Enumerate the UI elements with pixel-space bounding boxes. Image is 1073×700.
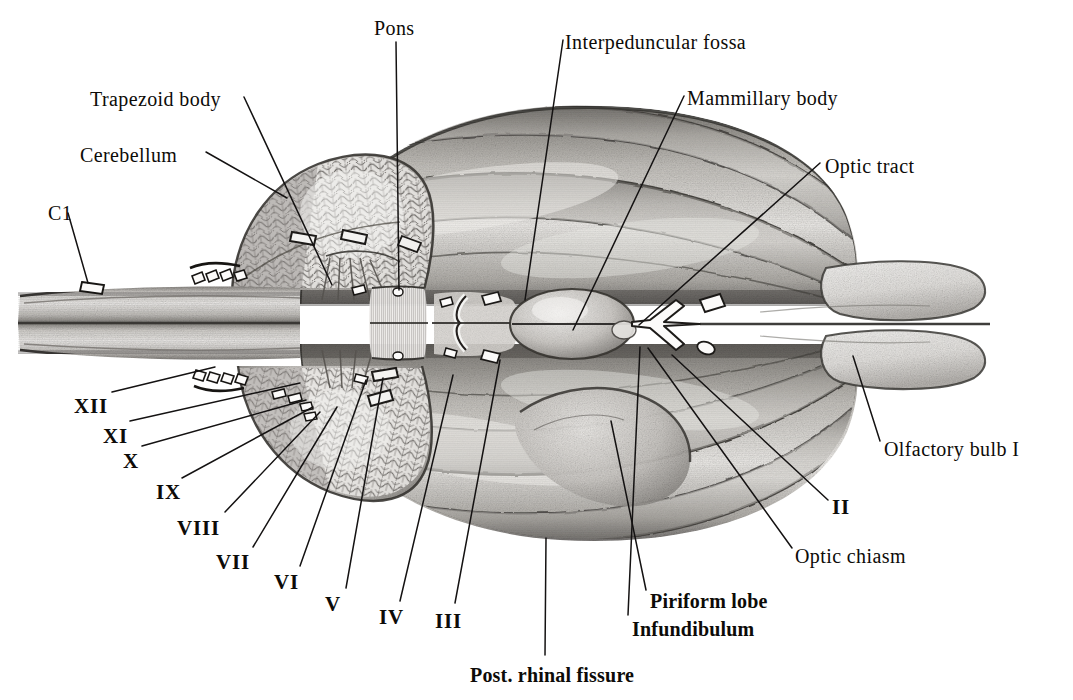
label-piriform-lobe: Piriform lobe	[650, 591, 768, 611]
label-cn-vi: VI	[274, 572, 299, 593]
label-infundibulum: Infundibulum	[632, 619, 754, 639]
label-trapezoid-body: Trapezoid body	[90, 89, 221, 109]
label-cn-iii: III	[435, 611, 462, 632]
label-cn-vii: VII	[216, 552, 250, 573]
olfactory-bulb-lower	[821, 330, 985, 389]
leader-line-post-rhinal-fissure	[545, 538, 546, 655]
label-cn-iv: IV	[379, 607, 404, 628]
label-post-rhinal-fissure: Post. rhinal fissure	[470, 665, 634, 685]
olfactory-bulb-upper	[821, 261, 985, 320]
label-cn-xi: XI	[103, 426, 128, 447]
pons-body	[369, 287, 428, 360]
label-olfactory-bulb-i: Olfactory bulb I	[884, 439, 1019, 459]
label-cn-x: X	[123, 451, 139, 472]
label-optic-chiasm: Optic chiasm	[795, 546, 906, 566]
label-cn-viii: VIII	[177, 518, 220, 539]
label-cn-ix: IX	[156, 482, 181, 503]
figure-page: PonsInterpeduncular fossaMammillary body…	[0, 0, 1073, 700]
label-optic-tract: Optic tract	[825, 156, 914, 176]
label-cerebellum: Cerebellum	[80, 145, 177, 165]
label-cn-ii: II	[832, 497, 850, 518]
label-cn-v: V	[325, 594, 341, 615]
c1-root-stub	[80, 282, 104, 294]
label-pons: Pons	[374, 18, 415, 38]
label-mammillary-body: Mammillary body	[687, 88, 838, 108]
label-cn-xii: XII	[74, 396, 108, 417]
label-c1: C1	[48, 203, 72, 223]
label-interpeduncular-fossa: Interpeduncular fossa	[565, 32, 746, 52]
